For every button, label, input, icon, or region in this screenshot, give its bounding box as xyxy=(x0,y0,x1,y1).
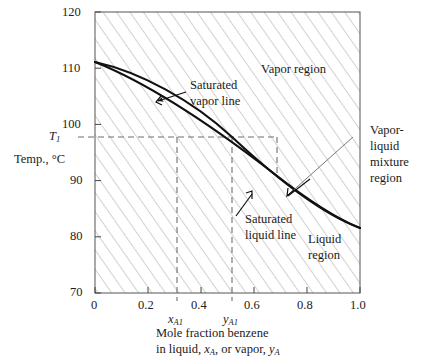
liquid-region-label-line2: region xyxy=(308,248,340,262)
saturated-vapor-line-label-line2: vapor line xyxy=(190,94,240,108)
y-tick-label-90: 90 xyxy=(70,173,83,187)
y-axis-title: Temp., °C xyxy=(14,152,65,166)
x-tick-label-0.2: 0.2 xyxy=(138,298,154,312)
saturated-vapor-line-label-line1: Saturated xyxy=(190,78,237,92)
x-tick-label-0: 0 xyxy=(91,298,97,312)
x-axis-title-mid: , or vapor, xyxy=(215,342,269,356)
x-tick-label-0.6: 0.6 xyxy=(244,298,260,312)
vapor-liquid-mixture-label-line3: mixture xyxy=(370,155,409,169)
x-tick-label-0.8: 0.8 xyxy=(297,298,313,312)
t1-label-sub: 1 xyxy=(56,134,60,144)
y-tick-label-70: 70 xyxy=(70,285,83,299)
x-tick-label-1.0: 1.0 xyxy=(350,298,366,312)
vapor-region-label: Vapor region xyxy=(261,62,326,76)
y-tick-label-80: 80 xyxy=(70,229,83,243)
x-axis-title-pre: in liquid, xyxy=(156,342,204,356)
x-tick-label-0.4: 0.4 xyxy=(191,298,207,312)
x-axis-title-ysub: A xyxy=(275,347,280,357)
phase-diagram-figure: 120 110 100 90 80 70 T1 Temp., °C 0 0.2 … xyxy=(0,0,424,360)
saturated-liquid-line-label-line1: Saturated xyxy=(245,212,292,226)
y-tick-label-120: 120 xyxy=(62,5,81,19)
vapor-liquid-mixture-label-line4: region xyxy=(370,171,402,185)
saturated-liquid-line-label-line2: liquid line xyxy=(245,228,296,242)
vapor-liquid-mixture-label-line1: Vapor- xyxy=(370,123,404,137)
x-axis-title-line1: Mole fraction benzene xyxy=(156,326,268,340)
liquid-region-label-line1: Liquid xyxy=(308,232,341,246)
t1-label: T1 xyxy=(49,129,60,145)
y-tick-label-110: 110 xyxy=(62,61,80,75)
vapor-liquid-mixture-label-line2: liquid xyxy=(370,139,399,153)
y-tick-label-100: 100 xyxy=(62,117,81,131)
x-axis-title-line2: in liquid, xA, or vapor, yA xyxy=(156,342,280,358)
t1-label-main: T xyxy=(49,129,56,143)
